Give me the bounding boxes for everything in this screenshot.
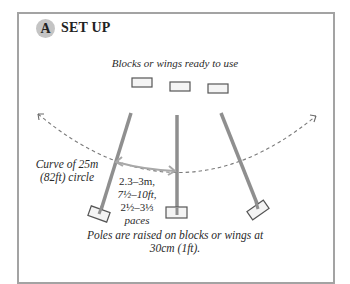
pole-right — [221, 113, 258, 206]
curve-arrowhead-right-icon — [310, 115, 316, 122]
spare-block-icon — [170, 82, 190, 91]
spare-block-icon — [132, 78, 152, 87]
curve-label-line1: Curve of 25m — [28, 158, 106, 171]
curve-label-line2: (82ft) circle — [28, 171, 106, 184]
distance-label-line1: 2.3–3m, — [112, 175, 162, 188]
blocks-ready-label: Blocks or wings ready to use — [0, 57, 350, 70]
distance-arrow — [116, 162, 175, 171]
distance-label-line3: 2½–3⅓ — [112, 201, 162, 214]
spare-blocks — [132, 78, 228, 93]
distance-label-line4: paces — [112, 214, 162, 227]
distance-label-line2: 7½–10ft, — [112, 188, 162, 201]
spare-block-icon — [208, 84, 228, 93]
poles-note-line1: Poles are raised on blocks or wings at — [0, 229, 350, 242]
poles-note-line2: 30cm (1ft). — [0, 242, 350, 255]
